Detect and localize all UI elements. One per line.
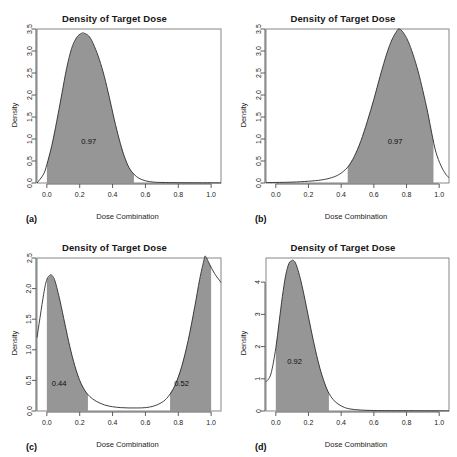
svg-text:1.0: 1.0 — [255, 134, 262, 144]
svg-text:0.8: 0.8 — [402, 191, 412, 198]
svg-text:0.0: 0.0 — [42, 419, 52, 426]
svg-text:0.0: 0.0 — [26, 406, 33, 416]
svg-text:1: 1 — [255, 377, 262, 381]
svg-text:1.0: 1.0 — [434, 191, 444, 198]
svg-text:3.5: 3.5 — [255, 24, 262, 34]
svg-text:3: 3 — [255, 312, 262, 316]
svg-text:0.0: 0.0 — [42, 191, 52, 198]
svg-text:0.8: 0.8 — [402, 419, 412, 426]
svg-text:0.6: 0.6 — [369, 419, 379, 426]
svg-text:1.0: 1.0 — [434, 419, 444, 426]
svg-text:0.5: 0.5 — [26, 156, 33, 166]
svg-text:0.52: 0.52 — [174, 379, 189, 388]
svg-text:0.4: 0.4 — [108, 191, 118, 198]
svg-text:0.8: 0.8 — [173, 419, 183, 426]
svg-text:0: 0 — [255, 409, 262, 413]
svg-text:0.4: 0.4 — [108, 419, 118, 426]
svg-text:3.5: 3.5 — [26, 24, 33, 34]
svg-text:0.0: 0.0 — [26, 178, 33, 188]
panel-d: Density of Target Dose Density Dose Comb… — [229, 229, 457, 457]
svg-text:0.97: 0.97 — [81, 137, 96, 146]
svg-text:2.0: 2.0 — [255, 90, 262, 100]
svg-text:2.0: 2.0 — [26, 90, 33, 100]
svg-text:4: 4 — [255, 280, 262, 284]
svg-text:0.97: 0.97 — [388, 137, 403, 146]
svg-text:0.5: 0.5 — [26, 375, 33, 385]
svg-text:1.0: 1.0 — [206, 191, 216, 198]
panel-b: Density of Target Dose Density Dose Comb… — [229, 0, 457, 229]
svg-text:2.5: 2.5 — [26, 68, 33, 78]
svg-text:2.5: 2.5 — [255, 68, 262, 78]
svg-text:2.5: 2.5 — [26, 253, 33, 263]
svg-text:3.0: 3.0 — [26, 46, 33, 56]
svg-text:1.0: 1.0 — [206, 419, 216, 426]
svg-text:0.92: 0.92 — [287, 357, 302, 366]
svg-text:0.4: 0.4 — [336, 191, 346, 198]
svg-text:0.2: 0.2 — [304, 419, 314, 426]
svg-text:1.5: 1.5 — [26, 112, 33, 122]
svg-text:0.6: 0.6 — [369, 191, 379, 198]
panel-c: Density of Target Dose Density Dose Comb… — [0, 229, 229, 457]
panel-a: Density of Target Dose Density Dose Comb… — [0, 0, 229, 229]
svg-text:3.0: 3.0 — [255, 46, 262, 56]
svg-text:2.0: 2.0 — [26, 284, 33, 294]
svg-text:2: 2 — [255, 345, 262, 349]
svg-text:0.6: 0.6 — [141, 191, 151, 198]
svg-text:0.2: 0.2 — [75, 419, 85, 426]
svg-text:0.5: 0.5 — [255, 156, 262, 166]
svg-text:1.5: 1.5 — [255, 112, 262, 122]
svg-text:1.0: 1.0 — [26, 345, 33, 355]
svg-text:0.44: 0.44 — [52, 379, 67, 388]
panel-a-plot: 0.00.20.40.60.81.00.00.51.01.52.02.53.03… — [0, 0, 229, 229]
svg-text:0.0: 0.0 — [271, 419, 281, 426]
svg-text:0.4: 0.4 — [336, 419, 346, 426]
panel-b-plot: 0.00.20.40.60.81.00.00.51.01.52.02.53.03… — [229, 0, 457, 229]
svg-text:0.8: 0.8 — [173, 191, 183, 198]
svg-text:1.5: 1.5 — [26, 314, 33, 324]
svg-text:0.2: 0.2 — [304, 191, 314, 198]
panel-d-plot: 0.00.20.40.60.81.0012340.92 — [229, 229, 457, 457]
svg-text:0.0: 0.0 — [255, 178, 262, 188]
svg-text:1.0: 1.0 — [26, 134, 33, 144]
svg-text:0.2: 0.2 — [75, 191, 85, 198]
panel-c-plot: 0.00.20.40.60.81.00.00.51.01.52.02.50.44… — [0, 229, 229, 457]
svg-text:0.6: 0.6 — [141, 419, 151, 426]
figure-grid: Density of Target Dose Density Dose Comb… — [0, 0, 457, 457]
svg-text:0.0: 0.0 — [271, 191, 281, 198]
